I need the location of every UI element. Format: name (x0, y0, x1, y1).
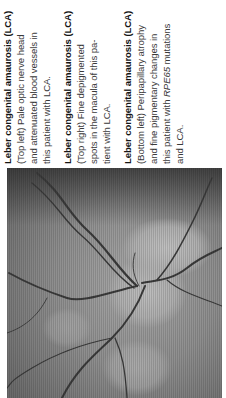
gene-name: RPE65 (161, 67, 172, 97)
caption-line: (Bottom left) Peripapillary atrophy (134, 2, 147, 164)
caption-column: Leber congenital amaurosis (LCA) (Top le… (0, 0, 226, 166)
caption-line: (Top right) Fine depigmented (74, 2, 87, 164)
rotated-caption-text: Leber congenital amaurosis (LCA) (Top le… (0, 0, 226, 166)
caption-line: this patient with LCA. (40, 2, 53, 164)
fundus-photograph (7, 168, 222, 398)
caption-text: mutations (161, 24, 172, 67)
caption-block-top-right: Leber congenital amaurosis (LCA) (Top ri… (61, 2, 113, 164)
caption-block-top-left: Leber congenital amaurosis (LCA) (Top le… (1, 2, 53, 164)
caption-title: Leber congenital amaurosis (LCA) (61, 2, 74, 164)
caption-line-gene: this patient with RPE65 mutations (160, 2, 173, 164)
caption-text: this patient with (161, 97, 172, 164)
caption-line: tient with LCA. (100, 2, 113, 164)
caption-line: and LCA. (173, 2, 186, 164)
fundus-image (7, 168, 222, 398)
caption-line: and attenuated blood vessels in (27, 2, 40, 164)
caption-line: and fine pigmentary changes in (147, 2, 160, 164)
caption-block-bottom-left: Leber congenital amaurosis (LCA) (Bottom… (121, 2, 186, 164)
caption-title: Leber congenital amaurosis (LCA) (1, 2, 14, 164)
caption-line: (Top left) Pale optic nerve head (14, 2, 27, 164)
caption-line: spots in the macula of this pa- (87, 2, 100, 164)
caption-title: Leber congenital amaurosis (LCA) (121, 2, 134, 164)
